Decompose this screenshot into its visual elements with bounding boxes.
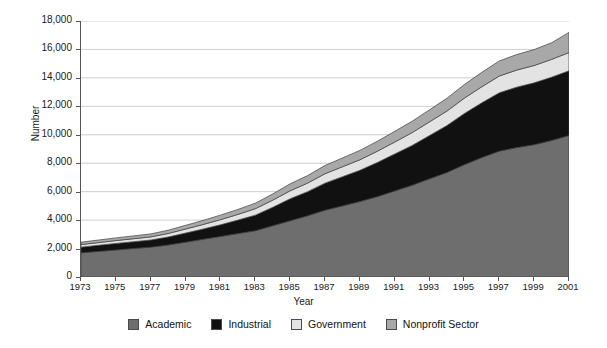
x-axis-tick-mark xyxy=(150,277,151,281)
x-axis-tick-mark xyxy=(463,277,464,281)
x-axis-tick-mark xyxy=(80,277,81,281)
y-axis-tick-label: 18,000 xyxy=(8,14,72,25)
y-axis-tick-label: 2,000 xyxy=(8,242,72,253)
y-axis-tick-label: 0 xyxy=(8,270,72,281)
legend-item-label: Industrial xyxy=(228,318,271,330)
legend-item[interactable]: Industrial xyxy=(211,318,271,330)
x-axis-tick-mark xyxy=(324,277,325,281)
legend-swatch-industrial xyxy=(211,319,222,330)
x-axis-tick-mark xyxy=(533,277,534,281)
chart-container: Number 02,0004,0006,0008,00010,00012,000… xyxy=(0,0,607,348)
x-axis-tick-mark xyxy=(254,277,255,281)
x-axis-tick-mark xyxy=(289,277,290,281)
legend-swatch-academic xyxy=(128,319,139,330)
x-axis-tick-mark xyxy=(568,277,569,281)
x-axis-tick-mark xyxy=(115,277,116,281)
x-axis-tick-mark xyxy=(359,277,360,281)
y-axis-tick-label: 4,000 xyxy=(8,213,72,224)
plot-area xyxy=(80,21,568,277)
y-axis-tick-label: 16,000 xyxy=(8,42,72,53)
legend-item-label: Nonprofit Sector xyxy=(403,318,479,330)
x-axis-tick-mark xyxy=(498,277,499,281)
legend-item-label: Government xyxy=(308,318,366,330)
x-axis-tick-label: 2001 xyxy=(548,281,588,292)
legend-swatch-nonprofit xyxy=(386,319,397,330)
legend-item[interactable]: Academic xyxy=(128,318,191,330)
x-axis-title: Year xyxy=(0,296,607,307)
legend-swatch-government xyxy=(291,319,302,330)
legend-item-label: Academic xyxy=(145,318,191,330)
x-axis-tick-mark xyxy=(429,277,430,281)
x-axis-tick-mark xyxy=(219,277,220,281)
y-axis-title: Number xyxy=(30,79,41,169)
legend-item[interactable]: Government xyxy=(291,318,366,330)
legend-item[interactable]: Nonprofit Sector xyxy=(386,318,479,330)
stacked-area-plot xyxy=(81,21,569,277)
x-axis-tick-mark xyxy=(394,277,395,281)
y-axis-tick-label: 6,000 xyxy=(8,185,72,196)
chart-legend: AcademicIndustrialGovernmentNonprofit Se… xyxy=(0,318,607,330)
x-axis-tick-mark xyxy=(185,277,186,281)
